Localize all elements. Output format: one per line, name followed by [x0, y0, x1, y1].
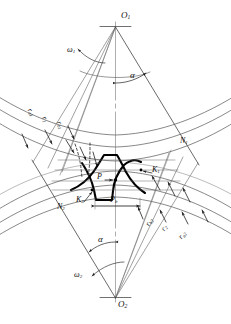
- contact-point-p: [114, 178, 117, 181]
- label-pb: Pb: [110, 196, 117, 205]
- radius-arrows-lower: [152, 176, 190, 202]
- label-o2: O2: [118, 300, 127, 310]
- contact-point-k1: [140, 169, 143, 172]
- k1-leader: [143, 171, 152, 173]
- label-k2: K2: [76, 196, 84, 205]
- label-alpha-upper: α: [130, 71, 135, 80]
- label-omega2: ω2: [74, 271, 82, 280]
- gear-mesh-diagram: [0, 0, 231, 324]
- angle-arc-alpha-upper: [80, 71, 150, 78]
- contact-point-k2: [91, 189, 94, 192]
- rotation-arc-omega2: [92, 262, 124, 276]
- label-alpha-lower: α: [98, 235, 103, 244]
- label-omega1: ω1: [67, 46, 75, 55]
- label-n2: N2: [57, 203, 65, 212]
- figure-canvas: O1 O2 ω1 ω2 α α N1 N2 K1 K2 P Pb ra1 r1 …: [0, 0, 231, 324]
- label-n1: N1: [180, 137, 188, 146]
- label-p: P: [97, 173, 102, 181]
- k2-leader: [84, 192, 92, 202]
- label-k1: K1: [152, 166, 160, 175]
- label-o1: O1: [121, 11, 130, 21]
